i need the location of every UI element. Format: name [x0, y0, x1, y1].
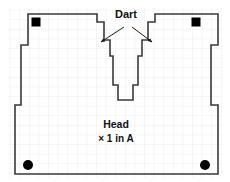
- piece-name-label: Head: [103, 118, 129, 130]
- bottom-left-circle-marker: [23, 160, 33, 170]
- dart-label: Dart: [115, 8, 137, 20]
- grid-overlay: [8, 8, 222, 178]
- bottom-right-circle-marker: [200, 160, 210, 170]
- piece-quantity-label: × 1 in A: [98, 133, 133, 144]
- top-left-square-marker: [32, 18, 41, 27]
- pattern-svg: Dart Head × 1 in A: [0, 0, 230, 182]
- pattern-diagram: Dart Head × 1 in A: [0, 0, 230, 182]
- top-right-square-marker: [192, 18, 201, 27]
